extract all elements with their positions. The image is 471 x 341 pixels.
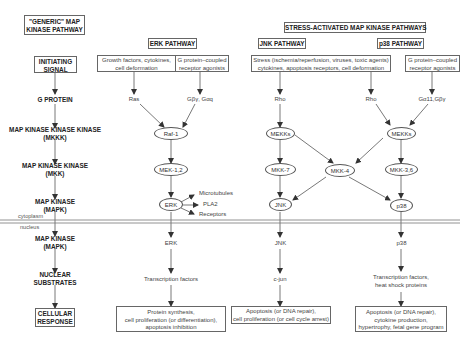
jnk-pathway-header: JNK PATHWAY: [258, 38, 306, 49]
erk-signal-gpcr-box: G protein–coupled receptor agonists: [175, 55, 229, 72]
raf1-node: Raf-1: [154, 127, 188, 140]
erk-response-line2: cell proliferation (or differentiation),: [117, 317, 225, 325]
generic-pathway-header: "GENERIC" MAP KINASE PATHWAY: [24, 15, 85, 35]
mkk-label: MAP KINASE KINASE (MKK): [0, 162, 110, 178]
cytoplasm-label: cytoplasm: [18, 213, 43, 221]
erk-nuclear-label: ERK: [159, 240, 183, 248]
cjun-label: c-jun: [265, 276, 295, 284]
nuclear-line2: SUBSTRATES: [0, 279, 110, 287]
p38-rho-label: Rho: [361, 96, 381, 104]
p38-pathway-header: p38 PATHWAY: [377, 38, 424, 49]
response-line2: RESPONSE: [36, 318, 74, 326]
initiating-signal-box: INITIATING SIGNAL: [34, 56, 77, 73]
erk-signal1-line2: cell deformation: [98, 65, 175, 73]
p38-substrates-line2: heat shock proteins: [361, 282, 441, 290]
erk-target-pla2: PLA2: [203, 201, 218, 209]
mapk-line2: (MAPK): [0, 206, 110, 214]
jnk-signal-line1: Stress (ischemia/reperfusion, viruses, t…: [252, 57, 390, 65]
erk-response-line3: apoptosis inhibition: [117, 324, 225, 332]
p38-node: p38: [390, 199, 413, 212]
jnk-header-label: JNK PATHWAY: [260, 40, 305, 47]
ras-label: Ras: [122, 96, 146, 104]
mapk-line1: MAP KINASE: [0, 198, 110, 206]
p38-signal-line1: G protein–coupled: [406, 57, 459, 65]
jnk-stress-signal-box: Stress (ischemia/reperfusion, viruses, t…: [251, 55, 391, 72]
erk-target-receptors: Receptors: [199, 211, 226, 219]
nuclear-line1: NUCLEAR: [0, 271, 110, 279]
mkk-line1: MAP KINASE KINASE: [0, 162, 110, 170]
ga11-gbg-label: Gα11,Gβγ: [414, 96, 450, 104]
p38-response-line2: cytokine production,: [356, 317, 446, 325]
erk-target-microtubules: Microtubules: [199, 190, 233, 198]
mkk7-label: MKK-7: [271, 167, 289, 173]
initiating-line1: INITIATING: [35, 58, 76, 66]
erk-node-label: ERK: [165, 202, 177, 208]
jnk-response-box: Apoptosis (or DNA repair), cell prolifer…: [231, 306, 331, 324]
jnk-nuclear-label: JNK: [269, 240, 292, 248]
erk-signal2-line2: receptor agonists: [176, 65, 228, 73]
jnk-rho-label: Rho: [270, 96, 290, 104]
p38-substrates-label: Transcription factors, heat shock protei…: [361, 274, 441, 289]
mek12-label: MEK-1,2: [159, 167, 182, 173]
jnk-node-label: JNK: [275, 202, 286, 208]
mkkk-line2: (MKKK): [0, 134, 110, 142]
cellular-response-box: CELLULAR RESPONSE: [35, 308, 75, 327]
mapk2-line2: (MAPK): [0, 243, 110, 251]
p38-header-label: p38 PATHWAY: [379, 40, 422, 47]
p38-mekks-node: MEKKs: [387, 127, 416, 140]
jnk-mekks-label: MEKKs: [270, 131, 290, 137]
erk-response-box: Protein synthesis, cell proliferation (o…: [116, 306, 226, 332]
membrane: [0, 220, 460, 223]
response-line1: CELLULAR: [36, 310, 74, 318]
jnk-response-line1: Apoptosis (or DNA repair),: [232, 308, 330, 316]
mkk4-node: MKK-4: [325, 164, 355, 177]
mkkk-label: MAP KINASE KINASE KINASE (MKKK): [0, 126, 110, 142]
generic-header-line1: "GENERIC" MAP: [25, 18, 84, 26]
p38-response-line1: Apoptosis (or DNA repair),: [356, 309, 446, 317]
erk-substrates-label: Transcription factors: [131, 276, 211, 284]
mapk2-line1: MAP KINASE: [0, 235, 110, 243]
mkk-line2: (MKK): [0, 170, 110, 178]
p38-response-box: Apoptosis (or DNA repair), cytokine prod…: [355, 306, 447, 332]
mkkk-line1: MAP KINASE KINASE KINASE: [0, 126, 110, 134]
mek12-node: MEK-1,2: [154, 163, 188, 176]
p38-response-line3: hypertrophy, fetal gene program: [356, 324, 446, 332]
p38-nuclear-label: p38: [390, 240, 413, 248]
g-protein-label: G PROTEIN: [15, 96, 95, 104]
mkk7-node: MKK-7: [265, 163, 296, 176]
raf1-label: Raf-1: [164, 131, 179, 137]
p38-substrates-line1: Transcription factors,: [361, 274, 441, 282]
mkk36-node: MKK-3,6: [385, 163, 418, 176]
jnk-signal-line2: cytokines, apoptosis receptors, cell def…: [252, 65, 390, 73]
p38-signal-line2: receptor agonists: [406, 65, 459, 73]
erk-header-label: ERK PATHWAY: [150, 40, 196, 47]
erk-signal2-line1: G protein–coupled: [176, 57, 228, 65]
nucleus-label: nucleus: [20, 224, 39, 232]
stress-pathways-header: STRESS-ACTIVATED MAP KINASE PATHWAYS: [284, 22, 426, 33]
initiating-line2: SIGNAL: [35, 66, 76, 74]
p38-node-label: p38: [396, 203, 406, 209]
erk-signal-growth-box: Growth factors, cytokines, cell deformat…: [97, 55, 176, 72]
erk-node: ERK: [159, 198, 183, 211]
erk-signal1-line1: Growth factors, cytokines,: [98, 57, 175, 65]
mkk4-label: MKK-4: [331, 168, 349, 174]
erk-pathway-header: ERK PATHWAY: [148, 38, 197, 49]
p38-gpcr-signal-box: G protein–coupled receptor agonists: [405, 55, 460, 72]
erk-response-line1: Protein synthesis,: [117, 309, 225, 317]
nuclear-substrates-label: NUCLEAR SUBSTRATES: [0, 271, 110, 287]
jnk-mekks-node: MEKKs: [266, 127, 295, 140]
mapk-label: MAP KINASE (MAPK): [0, 198, 110, 214]
p38-mekks-label: MEKKs: [391, 131, 411, 137]
generic-header-line2: KINASE PATHWAY: [25, 26, 84, 34]
stress-header-label: STRESS-ACTIVATED MAP KINASE PATHWAYS: [285, 24, 427, 31]
jnk-node: JNK: [269, 198, 292, 211]
mapk-nuclear-label: MAP KINASE (MAPK): [0, 235, 110, 251]
jnk-response-line2: cell proliferation (or cell cycle arrest…: [232, 316, 330, 324]
mkk36-label: MKK-3,6: [390, 167, 413, 173]
gbg-gaq-label: Gβγ, Gαq: [182, 96, 218, 104]
